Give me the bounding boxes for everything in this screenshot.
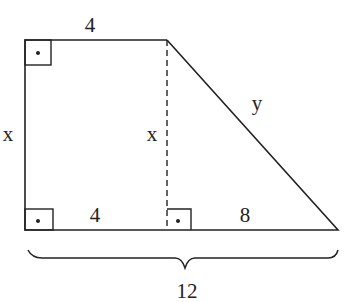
trapezoid-outline <box>25 40 338 230</box>
label-left: x <box>3 122 14 146</box>
right-angle-marker-top-left <box>25 40 51 65</box>
label-bottom-left: 4 <box>90 203 101 227</box>
right-angle-marker-foot <box>167 209 191 230</box>
right-angle-marker-bottom-left <box>25 209 53 230</box>
label-slant: y <box>252 91 263 115</box>
label-height: x <box>147 122 158 146</box>
label-bottom-right: 8 <box>240 203 251 227</box>
label-top: 4 <box>85 13 96 37</box>
label-bottom-total: 12 <box>177 279 198 302</box>
bottom-brace <box>28 250 338 268</box>
trapezoid-diagram: 4 x x y 4 8 12 <box>0 0 351 302</box>
